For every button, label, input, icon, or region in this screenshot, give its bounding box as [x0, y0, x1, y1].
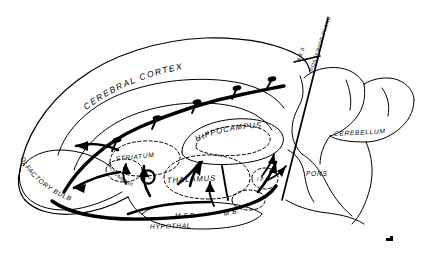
label-olfactory-bulb-text: OLFACTORY BULB	[19, 155, 73, 202]
label-anterior-commissure-text: A.C.	[142, 175, 153, 180]
brain-diagram-figure: CEREBRAL CORTEX HIPPOCAMPUS STRIATUM THA…	[0, 0, 421, 254]
pathway-arrows	[74, 141, 286, 206]
label-striatum-text: STRIATUM	[115, 151, 154, 162]
brain-diagram-canvas: CEREBRAL CORTEX HIPPOCAMPUS STRIATUM THA…	[0, 0, 421, 254]
svg-text:CEREBRAL CORTEX: CEREBRAL CORTEX	[81, 61, 184, 112]
label-plane-coordinate: A 1.6	[295, 46, 306, 63]
label-mfb: M.F.B.	[175, 211, 198, 219]
svg-text:ACCUMBENS: ACCUMBENS	[107, 163, 135, 188]
olfactory-bulb-outline	[19, 150, 128, 214]
label-ip-text: I.P.	[257, 177, 265, 182]
medial-forebrain-bundle-tract	[52, 186, 276, 219]
label-anterior-commissure: A.C.	[142, 175, 153, 180]
label-plane-coordinate-text: A 1.6	[295, 46, 306, 63]
label-cerebral-cortex-text: CEREBRAL CORTEX	[81, 61, 184, 112]
label-pons: PONS	[306, 170, 328, 177]
label-olfactory-bulb: OLFACTORY BULB	[19, 155, 73, 202]
label-mb-text: M.B.	[223, 207, 240, 217]
label-hippocampus: HIPPOCAMPUS	[194, 121, 262, 144]
artist-signature-mark	[386, 236, 393, 241]
label-posterior-plane-text: POSTERIOR PLANE	[308, 15, 332, 72]
label-cerebellum-text: CEREBELLUM	[334, 127, 386, 137]
label-mfb-text: M.F.B.	[175, 211, 198, 219]
svg-text:HIPPOCAMPUS: HIPPOCAMPUS	[194, 121, 262, 144]
label-accumbens-text: ACCUMBENS	[107, 163, 135, 188]
brainstem-outline	[286, 76, 364, 224]
label-hippocampus-text: HIPPOCAMPUS	[194, 121, 262, 144]
label-striatum: STRIATUM	[115, 151, 154, 162]
label-mb: M.B.	[223, 207, 240, 217]
label-accumbens: ACCUMBENS	[107, 163, 135, 188]
label-hypothalamus: HYPOTHAL	[150, 222, 191, 230]
label-ip: I.P.	[257, 177, 265, 182]
label-cerebellum: CEREBELLUM	[334, 127, 386, 137]
label-hypothalamus-text: HYPOTHAL	[150, 222, 191, 230]
label-pons-text: PONS	[306, 170, 328, 177]
label-posterior-plane: POSTERIOR PLANE	[308, 15, 332, 72]
label-cerebral-cortex: CEREBRAL CORTEX	[81, 61, 184, 112]
svg-text:OLFACTORY BULB: OLFACTORY BULB	[19, 155, 73, 202]
cerebellum-outline	[304, 67, 414, 224]
